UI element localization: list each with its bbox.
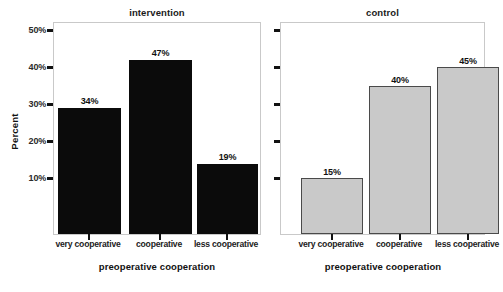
panel-intervention: intervention 34% 47% 19%: [53, 22, 261, 235]
bar-intervention-less-cooperative[interactable]: 19%: [197, 164, 258, 234]
plot-area-control: 15% 40% 45%: [281, 23, 484, 234]
panel-intervention-title: intervention: [54, 7, 260, 18]
y-tick-label-20: 20%: [12, 136, 46, 146]
bar-control-less-cooperative[interactable]: 45%: [437, 67, 499, 234]
bar-chart-figure: Percent 50% 40% 30% 20% 10% intervention…: [0, 0, 503, 292]
y-tick-label-10: 10%: [12, 173, 46, 183]
x-tick-label-intervention-less-cooperative: less cooperative: [194, 239, 258, 249]
y-tick-label-50: 50%: [12, 25, 46, 35]
x-tick-label-control-cooperative: cooperative: [376, 239, 422, 249]
x-axis-title-intervention: preoperative cooperation: [99, 261, 215, 272]
bar-value-control-less-cooperative: 45%: [459, 56, 477, 66]
x-axis-title-control: preoperative cooperation: [325, 261, 441, 272]
x-tick-label-control-less-cooperative: less cooperative: [435, 239, 499, 249]
bar-value-intervention-very-cooperative: 34%: [81, 96, 99, 106]
panel-control: control 15% 40% 45%: [280, 22, 485, 235]
x-tick-label-control-very-cooperative: very cooperative: [298, 239, 363, 249]
panel-control-title: control: [281, 7, 484, 18]
bar-value-control-very-cooperative: 15%: [323, 167, 341, 177]
x-tick-label-intervention-very-cooperative: very cooperative: [55, 239, 120, 249]
bar-control-cooperative[interactable]: 40%: [369, 86, 431, 234]
y-tick-label-30: 30%: [12, 99, 46, 109]
bar-value-intervention-cooperative: 47%: [152, 48, 170, 58]
bar-value-intervention-less-cooperative: 19%: [219, 152, 237, 162]
bar-intervention-very-cooperative[interactable]: 34%: [58, 108, 121, 234]
bar-control-very-cooperative[interactable]: 15%: [301, 178, 363, 234]
x-tick-label-intervention-cooperative: cooperative: [136, 239, 182, 249]
y-tick-label-40: 40%: [12, 62, 46, 72]
bar-value-control-cooperative: 40%: [391, 75, 409, 85]
plot-area-intervention: 34% 47% 19%: [54, 23, 260, 234]
bar-intervention-cooperative[interactable]: 47%: [129, 60, 192, 234]
